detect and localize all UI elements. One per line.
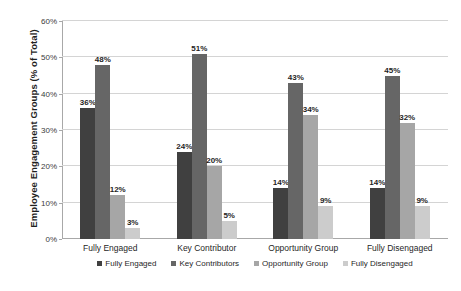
bar-value-label: 9% <box>416 196 428 205</box>
bar-group-bars: 14%45%32%9% <box>370 21 430 239</box>
legend-swatch-icon <box>254 261 259 266</box>
bar-value-label: 32% <box>399 113 415 122</box>
bar[interactable]: 48% <box>95 65 110 239</box>
x-axis-category-label: Opportunity Group <box>255 243 352 253</box>
y-axis-tick-mark <box>59 239 62 240</box>
bar[interactable]: 20% <box>207 166 222 239</box>
y-axis-title: Employee Engagement Groups (% of Total) <box>28 14 39 244</box>
bar-value-label: 34% <box>303 105 319 114</box>
bar-slot: 9% <box>318 21 333 239</box>
bar-group: 14%43%34%9% <box>255 21 352 239</box>
bar-slot: 12% <box>110 21 125 239</box>
bar-value-label: 3% <box>127 218 139 227</box>
bar-slot: 48% <box>95 21 110 239</box>
y-axis-tick-label: 0% <box>45 235 57 244</box>
bar-slot: 34% <box>303 21 318 239</box>
bar-groups: 36%48%12%3%24%51%20%5%14%43%34%9%14%45%3… <box>62 21 448 239</box>
bar-slot: 24% <box>177 21 192 239</box>
bar-group-bars: 14%43%34%9% <box>273 21 333 239</box>
chart-legend: Fully EngagedKey ContributorsOpportunity… <box>62 259 448 268</box>
bar-slot: 5% <box>222 21 237 239</box>
bar[interactable]: 43% <box>288 83 303 239</box>
bar-value-label: 24% <box>176 142 192 151</box>
bar-value-label: 14% <box>273 178 289 187</box>
bar-slot: 45% <box>385 21 400 239</box>
legend-swatch-icon <box>343 261 348 266</box>
bar-value-label: 36% <box>80 98 96 107</box>
bar-slot: 14% <box>370 21 385 239</box>
bar-group: 36%48%12%3% <box>62 21 159 239</box>
y-axis-tick-label: 50% <box>41 53 57 62</box>
legend-item[interactable]: Opportunity Group <box>254 259 328 268</box>
x-axis-category-labels: Fully EngagedKey ContributorOpportunity … <box>62 243 448 253</box>
bar[interactable]: 36% <box>80 108 95 239</box>
bar-slot: 51% <box>192 21 207 239</box>
bar[interactable]: 24% <box>177 152 192 239</box>
bar[interactable]: 5% <box>222 221 237 239</box>
x-axis-category-label: Fully Engaged <box>62 243 159 253</box>
legend-item[interactable]: Fully Disengaged <box>343 259 413 268</box>
bar-value-label: 51% <box>191 44 207 53</box>
legend-item[interactable]: Key Contributors <box>171 259 239 268</box>
bar-value-label: 48% <box>95 55 111 64</box>
legend-item-label: Fully Disengaged <box>351 259 413 268</box>
legend-item[interactable]: Fully Engaged <box>97 259 156 268</box>
bar-slot: 20% <box>207 21 222 239</box>
bar-group-bars: 36%48%12%3% <box>80 21 140 239</box>
bar-value-label: 14% <box>369 178 385 187</box>
bar[interactable]: 34% <box>303 115 318 239</box>
bar-value-label: 20% <box>206 156 222 165</box>
bar-slot: 36% <box>80 21 95 239</box>
y-axis-tick-label: 60% <box>41 17 57 26</box>
bar[interactable]: 14% <box>273 188 288 239</box>
bar-slot: 9% <box>415 21 430 239</box>
bar[interactable]: 45% <box>385 76 400 240</box>
bar-chart: Employee Engagement Groups (% of Total) … <box>0 0 461 291</box>
bar-slot: 43% <box>288 21 303 239</box>
y-axis-tick-label: 10% <box>41 198 57 207</box>
x-axis-category-label: Fully Disengaged <box>352 243 449 253</box>
bar[interactable]: 9% <box>415 206 430 239</box>
bar[interactable]: 12% <box>110 195 125 239</box>
bar-slot: 3% <box>125 21 140 239</box>
bar-value-label: 43% <box>288 73 304 82</box>
legend-swatch-icon <box>97 261 102 266</box>
legend-swatch-icon <box>171 261 176 266</box>
bar[interactable]: 51% <box>192 54 207 239</box>
bar-value-label: 9% <box>320 196 332 205</box>
x-axis-category-label: Key Contributor <box>159 243 256 253</box>
bar[interactable]: 9% <box>318 206 333 239</box>
bar[interactable]: 32% <box>400 123 415 239</box>
legend-item-label: Fully Engaged <box>105 259 156 268</box>
y-axis-tick-label: 20% <box>41 162 57 171</box>
y-axis-tick-label: 40% <box>41 89 57 98</box>
bar-slot: 32% <box>400 21 415 239</box>
bar-value-label: 12% <box>110 185 126 194</box>
legend-item-label: Key Contributors <box>179 259 239 268</box>
bar[interactable]: 14% <box>370 188 385 239</box>
bar-value-label: 45% <box>384 66 400 75</box>
bar-group: 24%51%20%5% <box>159 21 256 239</box>
bar-group: 14%45%32%9% <box>352 21 449 239</box>
plot-area: 0%10%20%30%40%50%60% 36%48%12%3%24%51%20… <box>62 21 448 239</box>
y-axis-tick-label: 30% <box>41 126 57 135</box>
bar-slot: 14% <box>273 21 288 239</box>
bar-value-label: 5% <box>223 211 235 220</box>
bar-group-bars: 24%51%20%5% <box>177 21 237 239</box>
bar[interactable]: 3% <box>125 228 140 239</box>
legend-item-label: Opportunity Group <box>262 259 328 268</box>
